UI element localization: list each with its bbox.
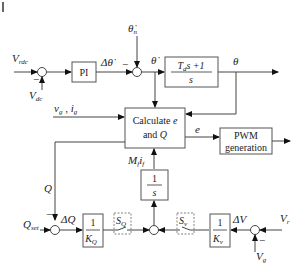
integrator-denominator: s (153, 187, 157, 198)
summing-junction-q (51, 226, 60, 235)
svg-text:Vrdc: Vrdc (12, 52, 29, 66)
delta-q-label: ΔQ (60, 213, 75, 225)
svg-text:Vr: Vr (280, 212, 290, 226)
td-denominator: s (189, 74, 193, 85)
theta-label: θ (233, 55, 239, 67)
minus-sign-vdc: − (33, 73, 39, 85)
delta-theta-dot-label: Δθ̇ (100, 56, 117, 68)
sq-label: SQ (116, 215, 126, 228)
q-label: Q (44, 182, 52, 194)
integrator-numerator: 1 (152, 173, 157, 184)
kv-numerator: 1 (218, 217, 223, 228)
minus-sign-sum2: − (122, 58, 128, 70)
svg-text:SQ: SQ (116, 215, 126, 228)
svg-text:Vg: Vg (256, 250, 267, 264)
pi-label: PI (80, 67, 89, 78)
vdc-label: Vdc (29, 89, 43, 103)
minus-sign-q: − (46, 208, 52, 220)
summing-junction-mid (150, 226, 159, 235)
calculate-e-q-block (125, 108, 185, 148)
sv-label: Sv (179, 215, 188, 228)
summing-junction-theta (133, 68, 142, 77)
calc-line1: Calculate e (133, 115, 178, 126)
vg-label: Vg (256, 250, 267, 264)
kq-numerator: 1 (91, 217, 96, 228)
block-diagram: Vrdc − Vdc PI Δθ̇ − θ̇n θ̇ Tds +1 s θ vg… (0, 0, 304, 276)
svg-text:θ̇n: θ̇n (128, 22, 137, 36)
pwm-line1: PWM (234, 130, 258, 141)
calc-line2: and Q (143, 129, 168, 140)
q-feedback-line (55, 142, 125, 220)
svg-text:Sv: Sv (179, 215, 188, 228)
vg-ig-label: vg , ig (54, 102, 78, 116)
vr-label: Vr (280, 212, 290, 226)
e-label: e (195, 123, 200, 135)
mf-if-label: Mfif (127, 154, 145, 168)
svg-text:vg , ig: vg , ig (54, 102, 78, 116)
qset-label: Qset (23, 218, 40, 232)
minus-sign-vg: − (259, 234, 265, 246)
pwm-line2: generation (225, 142, 267, 153)
svg-text:Mfif: Mfif (127, 154, 145, 168)
vrdc-label: Vrdc (12, 52, 29, 66)
theta-n-label: θ̇n (128, 22, 137, 36)
svg-text:Vdc: Vdc (29, 89, 43, 103)
svg-text:Qset: Qset (23, 218, 40, 232)
delta-v-label: ΔV (232, 213, 247, 225)
theta-dot-label: θ̇ (151, 54, 160, 66)
